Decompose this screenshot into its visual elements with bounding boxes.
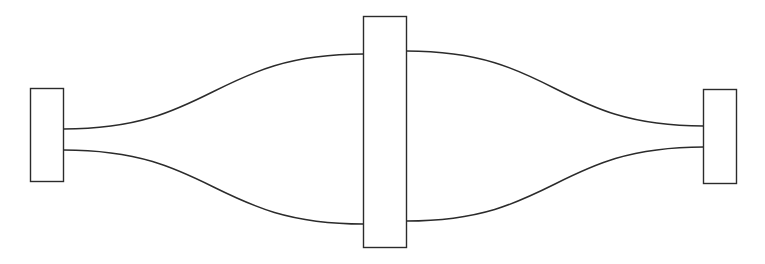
edge-upper-left bbox=[64, 54, 364, 129]
node-right-box bbox=[704, 90, 737, 184]
edge-lower-right bbox=[407, 147, 704, 221]
diagram-canvas bbox=[0, 0, 765, 264]
nodes-group bbox=[31, 17, 737, 248]
edge-lower-left bbox=[64, 150, 364, 224]
node-left-box bbox=[31, 89, 64, 182]
edge-upper-right bbox=[407, 51, 704, 126]
node-center-box bbox=[364, 17, 407, 248]
